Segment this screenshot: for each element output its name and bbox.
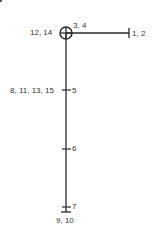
- tick5-right-label: 5: [72, 86, 76, 95]
- origin-left-label: 12, 14: [30, 28, 52, 37]
- right-end-label: 1, 2: [132, 29, 145, 38]
- origin-right-label: 3, 4: [73, 21, 86, 30]
- circle-cross-icon: [60, 27, 72, 39]
- tick7-label: 7: [72, 202, 76, 211]
- tick6-label: 6: [72, 144, 76, 153]
- bottom-end-label: 9, 10: [56, 216, 74, 225]
- tick5-left-label: 8, 11, 13, 15: [10, 86, 54, 95]
